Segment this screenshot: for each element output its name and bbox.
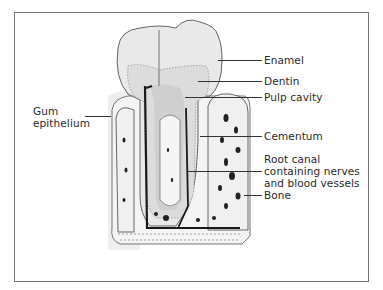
label-gum-line1: Gum: [33, 105, 90, 117]
tooth-illustration: [0, 0, 383, 290]
label-pulp-cavity: Pulp cavity: [264, 91, 323, 103]
leader-bone: [244, 195, 262, 196]
leader-cementum: [200, 136, 262, 137]
label-enamel: Enamel: [264, 54, 304, 66]
leader-root-canal: [188, 171, 262, 172]
label-root-canal: Root canal containing nerves and blood v…: [264, 153, 360, 189]
leader-dentin: [198, 81, 262, 82]
root-inner-shape: [160, 115, 180, 206]
label-root-canal-line1: Root canal: [264, 153, 360, 165]
leader-enamel: [218, 60, 262, 61]
label-root-canal-line2: containing nerves: [264, 165, 360, 177]
label-root-canal-line3: and blood vessels: [264, 177, 360, 189]
label-cementum: Cementum: [264, 130, 323, 142]
label-dentin: Dentin: [264, 75, 300, 87]
leader-pulp-cavity: [185, 97, 262, 98]
label-bone: Bone: [264, 189, 291, 201]
label-gum-epithelium: Gum epithelium: [33, 105, 90, 129]
alveolar-bone-right: [208, 94, 248, 230]
label-gum-line2: epithelium: [33, 117, 90, 129]
